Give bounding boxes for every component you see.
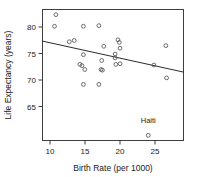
point-label-haiti: Haiti [141, 116, 156, 125]
scatter-plot-figure: 80 75 70 65 10 15 20 25 Birth Rate (per … [0, 0, 200, 177]
y-tick-label-65: 65 [27, 103, 36, 112]
y-tick-label-75: 75 [27, 50, 36, 59]
plot-canvas: 80 75 70 65 10 15 20 25 Birth Rate (per … [0, 0, 200, 177]
x-tick-label-15: 15 [81, 147, 90, 156]
x-tick-label-25: 25 [151, 147, 160, 156]
annotations-group: Haiti [141, 116, 156, 125]
y-axis-title: Life Expectancy (years) [3, 30, 13, 119]
x-tick-label-20: 20 [116, 147, 125, 156]
y-tick-label-70: 70 [27, 76, 36, 85]
x-tick-label-10: 10 [46, 147, 55, 156]
y-tick-label-80: 80 [27, 23, 36, 32]
x-axis-title: Birth Rate (per 1000) [73, 163, 153, 173]
